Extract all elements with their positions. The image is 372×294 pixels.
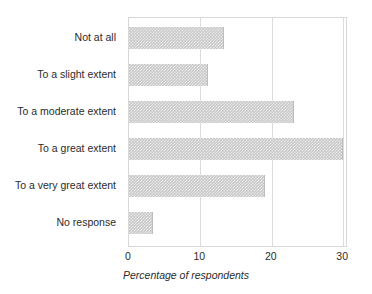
x-axis-ticks: 0 10 20 30 <box>128 250 347 266</box>
y-tick-label: No response <box>56 211 116 233</box>
bar-to-a-moderate-extent <box>129 101 294 123</box>
gridline-10 <box>200 18 201 246</box>
x-tick-label: 20 <box>265 250 277 262</box>
bar-to-a-very-great-extent <box>129 175 265 197</box>
y-tick-label: To a very great extent <box>15 174 116 196</box>
y-axis-labels: Not at all To a slight extent To a moder… <box>0 17 122 247</box>
bar-not-at-all <box>129 27 224 49</box>
bar-to-a-great-extent <box>129 138 343 160</box>
y-tick-label: Not at all <box>75 26 116 48</box>
bar-chart: Not at all To a slight extent To a moder… <box>0 0 372 294</box>
y-tick-label: To a great extent <box>38 137 116 159</box>
plot-area <box>128 17 347 247</box>
y-tick-label: To a moderate extent <box>17 100 116 122</box>
y-tick-label: To a slight extent <box>37 63 116 85</box>
bar-no-response <box>129 212 153 234</box>
x-tick-label: 0 <box>125 250 131 262</box>
x-tick-label: 10 <box>194 250 206 262</box>
x-axis-title: Percentage of respondents <box>0 269 372 281</box>
bar-to-a-slight-extent <box>129 64 208 86</box>
gridline-30 <box>343 18 344 246</box>
gridline-20 <box>272 18 273 246</box>
x-tick-label: 30 <box>336 250 348 262</box>
